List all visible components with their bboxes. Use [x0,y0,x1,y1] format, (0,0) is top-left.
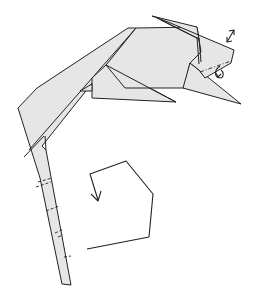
diagram-svg [0,0,256,305]
double-arrow-icon [227,30,234,42]
origami-diagram [0,0,256,305]
curl-arrow-icon [87,161,153,249]
